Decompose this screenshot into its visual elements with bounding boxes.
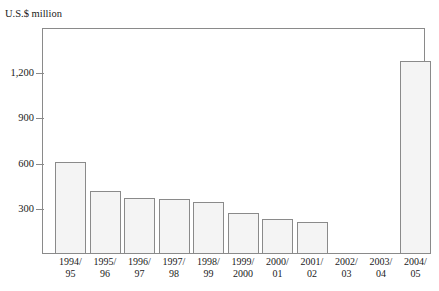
- x-axis-tick-label: 1995/96: [88, 256, 123, 280]
- x-axis-tick-label: 2000/01: [260, 256, 295, 280]
- bar: [400, 61, 431, 254]
- x-axis-tick-label: 1997/98: [157, 256, 192, 280]
- y-axis-tick-label: 900: [0, 113, 34, 123]
- y-axis-tick-label: 600: [0, 159, 34, 169]
- bar: [55, 162, 86, 254]
- x-axis-tick-label: 1999/2000: [226, 256, 261, 280]
- y-axis-tick-label: 1,200: [0, 68, 34, 78]
- x-axis-tick-label: 1994/95: [53, 256, 88, 280]
- bar: [124, 198, 155, 254]
- bar: [193, 202, 224, 254]
- x-axis-tick-label: 1998/99: [191, 256, 226, 280]
- x-axis-tick-label: 2003/04: [364, 256, 399, 280]
- y-axis-unit-caption: U.S.$ million: [5, 8, 62, 20]
- bar-chart: U.S.$ million 3006009001,200 1994/951995…: [0, 0, 439, 291]
- x-axis-labels: 1994/951995/961996/971997/981998/991999/…: [42, 256, 425, 290]
- x-axis-tick-label: 2004/05: [398, 256, 433, 280]
- x-axis-tick-label: 1996/97: [122, 256, 157, 280]
- bar: [228, 213, 259, 254]
- bar: [90, 191, 121, 254]
- bar: [262, 219, 293, 254]
- x-axis-tick-label: 2001/02: [295, 256, 330, 280]
- y-axis-tick-label: 300: [0, 204, 34, 214]
- bar: [297, 222, 328, 254]
- bar: [159, 199, 190, 254]
- bar-series: [42, 28, 425, 254]
- x-axis-tick-label: 2002/03: [329, 256, 364, 280]
